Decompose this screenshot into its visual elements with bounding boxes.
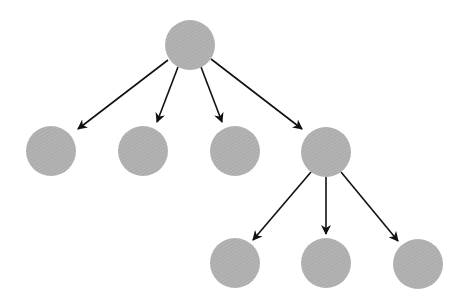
node-grandchild-1: [210, 238, 260, 288]
node-grandchild-2: [301, 238, 351, 288]
node-root: [165, 20, 215, 70]
edge-arrow-root-to-child-3: [201, 67, 222, 122]
node-child-3: [210, 126, 260, 176]
node-grandchild-3: [393, 239, 443, 289]
edge-arrow-root-to-child-4: [211, 59, 302, 129]
edge-arrow-child-4-to-grandchild-3: [341, 172, 398, 241]
edge-arrow-root-to-child-2: [157, 67, 178, 122]
node-child-1: [26, 126, 76, 176]
node-child-4: [301, 127, 351, 177]
tree-diagram: [0, 0, 468, 306]
node-child-2: [118, 126, 168, 176]
edge-arrow-root-to-child-1: [78, 60, 168, 129]
edge-arrow-child-4-to-grandchild-1: [253, 172, 311, 240]
nodes-group: [26, 20, 443, 289]
